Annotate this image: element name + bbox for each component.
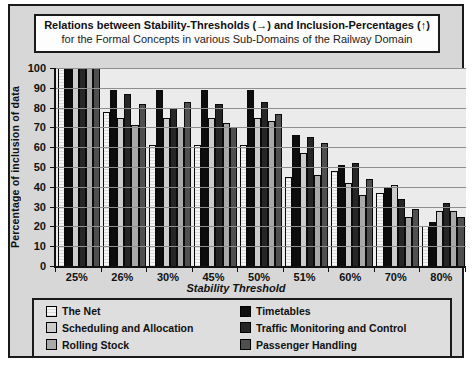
y-tick-mark — [50, 88, 54, 89]
legend-label: Traffic Monitoring and Control — [256, 322, 407, 334]
y-tick-label: 70 — [34, 121, 46, 133]
bar — [391, 185, 398, 266]
bar — [184, 102, 191, 266]
bar — [405, 217, 412, 267]
y-tick-mark — [50, 147, 54, 148]
legend-box: The NetTimetablesScheduling and Allocati… — [32, 298, 452, 358]
gridline — [56, 147, 466, 148]
bar — [443, 203, 450, 266]
gridline — [56, 246, 466, 247]
bar — [331, 171, 338, 266]
y-axis-title: Percentage of inclusion of data — [8, 68, 22, 266]
x-axis-title: Stability Threshold — [138, 282, 334, 294]
y-tick-mark — [50, 167, 54, 168]
legend-item: Traffic Monitoring and Control — [240, 322, 450, 334]
legend-label: Passenger Handling — [256, 339, 357, 351]
bar — [254, 118, 261, 267]
y-tick-mark — [50, 207, 54, 208]
legend-swatch-icon — [46, 306, 57, 317]
bar — [429, 222, 436, 266]
legend-swatch-icon — [46, 339, 57, 350]
legend-item: Timetables — [240, 305, 450, 317]
y-tick-label: 100 — [28, 62, 46, 74]
bar — [247, 90, 254, 266]
bar — [268, 121, 275, 266]
gridline — [56, 68, 466, 69]
y-tick-mark — [50, 68, 54, 69]
x-tick-label: 80% — [419, 271, 465, 283]
gridline — [56, 88, 466, 89]
gridline — [56, 108, 466, 109]
gridline — [56, 127, 466, 128]
legend-item: Passenger Handling — [240, 339, 450, 351]
x-tick-mark — [465, 268, 466, 272]
scanned-chart-page: { "figure": { "title_line1": "Relations … — [0, 0, 476, 369]
legend-item: Rolling Stock — [46, 339, 240, 351]
bar — [163, 118, 170, 267]
bar — [376, 193, 383, 266]
bar — [436, 211, 443, 266]
y-tick-label: 10 — [34, 240, 46, 252]
bar — [412, 209, 419, 266]
x-tick-label: 60% — [327, 271, 373, 283]
bar — [300, 153, 307, 266]
bar — [352, 163, 359, 266]
plot-area — [54, 68, 466, 268]
y-tick-mark — [50, 226, 54, 227]
bar — [240, 145, 247, 266]
bar — [156, 90, 163, 266]
y-tick-label: 90 — [34, 82, 46, 94]
legend-item: Scheduling and Allocation — [46, 322, 240, 334]
chart-title-box: Relations between Stability-Thresholds (… — [34, 14, 440, 53]
bar — [223, 123, 230, 266]
y-tick-mark — [50, 187, 54, 188]
x-tick-label: 70% — [373, 271, 419, 283]
y-tick-label: 0 — [40, 260, 46, 272]
bar — [285, 177, 292, 266]
legend-swatch-icon — [240, 339, 251, 350]
chart-title-line2: for the Formal Concepts in various Sub-D… — [38, 33, 436, 47]
bar — [359, 195, 366, 266]
bar — [366, 179, 373, 266]
bar — [261, 102, 268, 266]
bar — [117, 118, 124, 267]
bar — [194, 145, 201, 266]
bar — [275, 114, 282, 266]
gridline — [56, 226, 466, 227]
legend-label: Timetables — [256, 305, 311, 317]
y-tick-label: 40 — [34, 181, 46, 193]
bar — [457, 217, 464, 267]
legend-swatch-icon — [240, 306, 251, 317]
bar — [321, 143, 328, 266]
bar — [201, 90, 208, 266]
bar — [103, 112, 110, 266]
y-tick-label: 60 — [34, 141, 46, 153]
y-tick-mark — [50, 266, 54, 267]
bar — [149, 145, 156, 266]
gridline — [56, 187, 466, 188]
y-axis-tick-labels: 0102030405060708090100 — [22, 68, 50, 266]
legend-label: The Net — [62, 305, 101, 317]
y-tick-mark — [50, 108, 54, 109]
gridline — [56, 207, 466, 208]
bar — [345, 183, 352, 266]
legend-label: Scheduling and Allocation — [62, 322, 193, 334]
gridline — [56, 167, 466, 168]
legend-label: Rolling Stock — [62, 339, 129, 351]
bar — [450, 211, 457, 266]
bar — [110, 90, 117, 266]
legend-swatch-icon — [46, 322, 57, 333]
chart-title-line1: Relations between Stability-Thresholds (… — [38, 19, 436, 33]
y-tick-mark — [50, 127, 54, 128]
bar — [398, 199, 405, 266]
y-tick-label: 50 — [34, 161, 46, 173]
legend-swatch-icon — [240, 322, 251, 333]
legend-item: The Net — [46, 305, 240, 317]
y-tick-label: 80 — [34, 102, 46, 114]
x-tick-label: 25% — [54, 271, 100, 283]
bar — [124, 94, 131, 266]
bar — [338, 165, 345, 266]
figure-frame: Relations between Stability-Thresholds (… — [8, 4, 464, 358]
bar — [314, 175, 321, 266]
y-tick-label: 30 — [34, 201, 46, 213]
